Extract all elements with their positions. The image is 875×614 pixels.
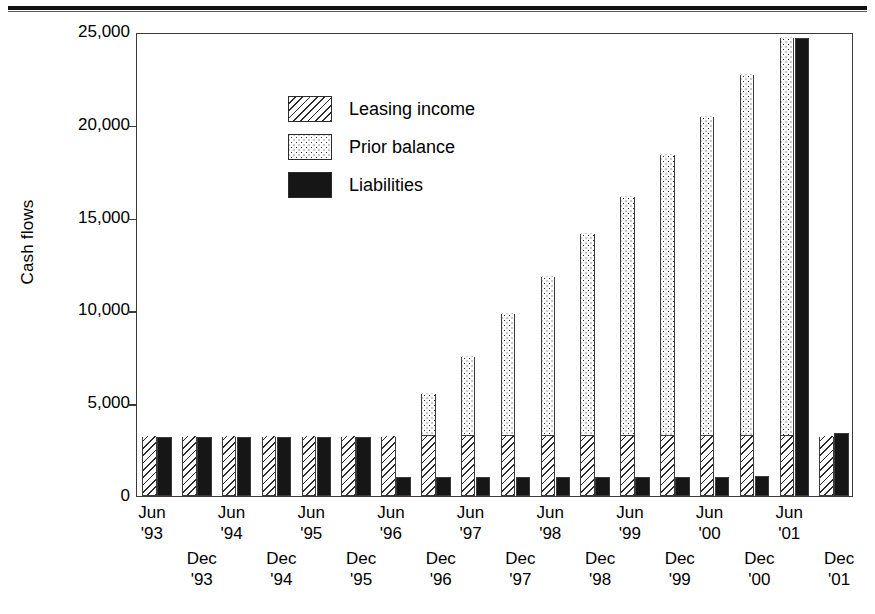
x-axis-label-year: '95 (283, 523, 339, 544)
bar-segment-leasing-income (581, 436, 594, 495)
x-axis-label: Jun'99 (602, 502, 658, 544)
bar-segment-prior-balance (701, 116, 714, 435)
x-axis-label-year: '96 (363, 523, 419, 544)
x-axis-label-month: Jun (761, 502, 817, 523)
bar-group (222, 34, 252, 496)
x-axis-label: Dec'96 (413, 548, 469, 590)
x-axis-label: Dec'93 (174, 548, 230, 590)
top-divider-rule (8, 6, 867, 10)
bar-stacked-left (222, 437, 237, 496)
bar-liabilities (317, 437, 332, 496)
bar-segment-divider (462, 435, 475, 436)
bar-stacked-left (740, 75, 755, 496)
legend-label: Liabilities (349, 175, 423, 196)
bar-liabilities (755, 476, 770, 496)
bar-segment-prior-balance (542, 276, 555, 436)
bar-group (541, 34, 571, 496)
bar-group (182, 34, 212, 496)
y-axis-tick-label: 10,000 (34, 301, 130, 318)
x-axis-label-year: '93 (174, 569, 230, 590)
legend-item: Prior balance (288, 128, 538, 166)
bar-segment-leasing-income (462, 436, 475, 495)
legend-swatch-hatch-icon (288, 96, 332, 122)
bar-segment-leasing-income (741, 436, 754, 495)
bar-group (142, 34, 172, 496)
bar-segment-prior-balance (422, 393, 435, 436)
legend-item: Leasing income (288, 90, 538, 128)
x-axis-label-year: '01 (811, 569, 867, 590)
legend-item: Liabilities (288, 166, 538, 204)
x-axis-label-year: '95 (333, 569, 389, 590)
x-axis-label-month: Dec (253, 548, 309, 569)
bar-liabilities (556, 477, 571, 496)
x-axis-label-month: Jun (443, 502, 499, 523)
x-axis-label-month: Dec (731, 548, 787, 569)
x-axis-label: Dec'97 (492, 548, 548, 590)
bar-liabilities (476, 477, 491, 496)
x-axis-label: Dec'94 (253, 548, 309, 590)
x-axis-label-year: '00 (682, 523, 738, 544)
bar-segment-leasing-income (701, 436, 714, 495)
bar-liabilities (396, 477, 411, 496)
bar-stacked-left (700, 117, 715, 496)
x-axis-label-month: Dec (413, 548, 469, 569)
bar-stacked-left (620, 197, 635, 496)
bar-stacked-left (262, 437, 277, 496)
bar-segment-leasing-income (183, 436, 196, 495)
bar-stacked-left (381, 437, 396, 496)
bar-segment-leasing-income (661, 436, 674, 495)
x-axis-label-year: '99 (602, 523, 658, 544)
bar-stacked-left (142, 437, 157, 496)
bar-stacked-left (341, 437, 356, 496)
bar-segment-leasing-income (502, 436, 515, 495)
x-axis-label: Jun'95 (283, 502, 339, 544)
x-axis-label-month: Dec (333, 548, 389, 569)
x-axis-label-year: '98 (572, 569, 628, 590)
bar-stacked-left (182, 437, 197, 496)
x-axis-label: Jun'97 (443, 502, 499, 544)
bar-segment-leasing-income (263, 436, 276, 495)
y-axis-tick-label: 5,000 (34, 394, 130, 411)
bar-stacked-left (541, 277, 556, 496)
x-axis-label-month: Jun (363, 502, 419, 523)
bar-liabilities (157, 437, 172, 496)
x-axis-label-month: Jun (283, 502, 339, 523)
bar-segment-leasing-income (422, 436, 435, 495)
x-axis-label-year: '93 (124, 523, 180, 544)
x-axis-label-year: '00 (731, 569, 787, 590)
bar-segment-divider (422, 435, 435, 436)
bar-segment-divider (781, 435, 794, 436)
bar-group (780, 34, 810, 496)
x-axis-label: Jun'00 (682, 502, 738, 544)
chart-page: Cash flows 25,00020,00015,00010,0005,000… (0, 0, 875, 614)
bar-segment-leasing-income (382, 436, 395, 495)
bar-segment-prior-balance (462, 356, 475, 436)
bar-liabilities (237, 437, 252, 496)
bar-liabilities (516, 477, 531, 496)
x-axis-label-year: '94 (253, 569, 309, 590)
y-axis-tick-label: 15,000 (34, 209, 130, 226)
x-axis-label: Jun'93 (124, 502, 180, 544)
x-axis-label: Jun'94 (204, 502, 260, 544)
x-axis-label-year: '99 (652, 569, 708, 590)
bar-segment-leasing-income (542, 436, 555, 495)
x-axis-label-month: Dec (652, 548, 708, 569)
bar-stacked-left (302, 437, 317, 496)
chart-legend: Leasing incomePrior balanceLiabilities (288, 90, 538, 204)
x-axis-label-month: Jun (602, 502, 658, 523)
bar-segment-prior-balance (621, 196, 634, 435)
top-divider-rule-thin (8, 11, 867, 12)
x-axis-label: Jun'98 (522, 502, 578, 544)
x-axis-label-month: Dec (811, 548, 867, 569)
bar-segment-divider (581, 435, 594, 436)
bar-segment-prior-balance (502, 313, 515, 435)
legend-swatch-dots-icon (288, 134, 332, 160)
bar-group (580, 34, 610, 496)
bar-segment-leasing-income (820, 436, 833, 495)
x-axis-label-year: '01 (761, 523, 817, 544)
bar-stacked-left (580, 234, 595, 496)
bar-group (700, 34, 730, 496)
plot-area: Leasing incomePrior balanceLiabilities (136, 33, 853, 497)
bar-stacked-left (461, 357, 476, 496)
bar-group (660, 34, 690, 496)
